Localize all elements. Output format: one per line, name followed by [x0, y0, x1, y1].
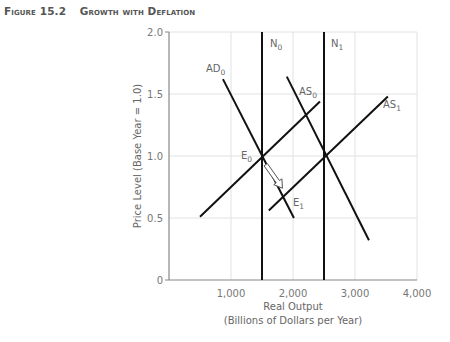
shift-arrow	[264, 164, 282, 189]
label-e0: E0	[241, 150, 252, 164]
tick-labels: 1,0002,0003,0004,00000.51.01.52.0	[147, 27, 431, 299]
label-n0: N0	[270, 38, 282, 52]
x-tick-label: 1,000	[217, 288, 246, 299]
label-ad0: AD0	[206, 63, 226, 77]
x-tick-label: 4,000	[403, 288, 432, 299]
label-as1: AS1	[383, 99, 401, 113]
x-tick-label: 3,000	[341, 288, 370, 299]
x-axis-label: Real Output	[263, 301, 323, 312]
label-as0: AS0	[299, 86, 317, 100]
label-n1: N1	[331, 38, 343, 52]
label-e1: E1	[293, 197, 304, 211]
y-tick-label: 2.0	[147, 27, 163, 38]
x-axis-sublabel: (Billions of Dollars per Year)	[224, 315, 363, 326]
curve-ad1	[287, 77, 369, 241]
y-tick-label: 1.5	[147, 89, 163, 100]
y-tick-label: 0.5	[147, 213, 163, 224]
x-tick-label: 2,000	[279, 288, 308, 299]
y-tick-label: 0	[157, 275, 163, 286]
chart: 1,0002,0003,0004,00000.51.01.52.0 N0N1AD…	[0, 0, 450, 342]
curve-as0	[200, 101, 320, 216]
y-axis-label: Price Level (Base Year = 1.0)	[132, 84, 143, 228]
curve-as1	[269, 96, 388, 210]
curve-labels: N0N1AD0AS0AS1E0E1	[206, 38, 401, 211]
y-tick-label: 1.0	[147, 151, 163, 162]
